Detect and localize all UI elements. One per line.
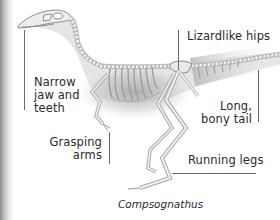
leader-line-tail [258, 70, 259, 122]
label-legs: Running legs [188, 154, 264, 167]
leader-line-jaw [24, 30, 25, 110]
leader-line-arms [109, 132, 110, 164]
figure-caption: Compsognathus [118, 198, 203, 210]
diagram-stage: Narrow jaw and teeth Lizardlike hips Lon… [0, 0, 280, 220]
label-jaw: Narrow jaw and teeth [34, 76, 80, 115]
label-arms: Grasping arms [46, 136, 102, 162]
label-tail: Long, bony tail [200, 100, 252, 126]
label-hips-text: Lizardlike hips [187, 29, 270, 43]
label-tail-line-2: bony tail [200, 113, 252, 126]
leader-line-legs [172, 173, 256, 174]
label-legs-text: Running legs [188, 153, 264, 167]
label-arms-line-2: arms [46, 149, 102, 162]
leader-line-hips [178, 30, 179, 70]
label-hips: Lizardlike hips [187, 30, 270, 43]
label-jaw-line-3: teeth [34, 102, 80, 115]
